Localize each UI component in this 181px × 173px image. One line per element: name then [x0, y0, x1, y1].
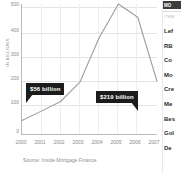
sidebar-item[interactable]: Bes	[164, 112, 181, 127]
callout-tail-left	[26, 94, 33, 103]
sidebar-item[interactable]: RB	[164, 39, 181, 54]
x-axis-ticks: 2000 2001 2002 2003 2004 2005 2006 2007	[21, 139, 157, 151]
y-tick-100: 100	[3, 99, 19, 105]
y-tick-500: 500	[3, 1, 19, 7]
sidebar-header: MO	[163, 1, 181, 9]
y-axis-ticks: 500 400 300 200 100 0	[0, 0, 19, 140]
chart-card: IN BILLIONS 500 400 300 200 100 0	[0, 0, 161, 173]
annotation-callout-2000: $56 billion	[26, 83, 64, 95]
y-tick-200: 200	[3, 75, 19, 81]
y-tick-0: 0	[3, 128, 19, 134]
plot-canvas	[21, 4, 157, 135]
sidebar-header-label: MO	[163, 1, 181, 8]
x-tick-2007: 2007	[143, 139, 161, 145]
sidebar-rule	[163, 11, 181, 12]
screenshot-root: IN BILLIONS 500 400 300 200 100 0	[0, 0, 181, 173]
sidebar-item[interactable]: Lef	[164, 24, 181, 39]
sidebar-divider	[162, 0, 163, 173]
chart-source: Source: Inside Mortgage Finance	[23, 157, 97, 163]
sidebar-item[interactable]: Cre	[164, 82, 181, 97]
y-tick-400: 400	[3, 27, 19, 33]
annotation-callout-2007: $219 billion	[96, 91, 138, 103]
sidebar-item[interactable]: Gol	[164, 126, 181, 141]
right-sidebar: MO ITEM LefRBCoMoCreMeBesGolDe	[161, 0, 181, 173]
annotation-label-2000: $56 billion	[30, 86, 60, 92]
sidebar-item[interactable]: De	[164, 141, 181, 156]
sidebar-list: LefRBCoMoCreMeBesGolDe	[164, 24, 181, 155]
data-line	[22, 4, 157, 134]
callout-tail-right	[131, 102, 138, 111]
annotation-label-2007: $219 billion	[100, 94, 134, 100]
sidebar-section-label: ITEM	[164, 14, 175, 19]
sidebar-item[interactable]: Me	[164, 97, 181, 112]
chart-plot-area: IN BILLIONS 500 400 300 200 100 0	[0, 0, 161, 140]
sidebar-item[interactable]: Co	[164, 53, 181, 68]
y-tick-300: 300	[3, 51, 19, 57]
sidebar-item[interactable]: Mo	[164, 68, 181, 83]
